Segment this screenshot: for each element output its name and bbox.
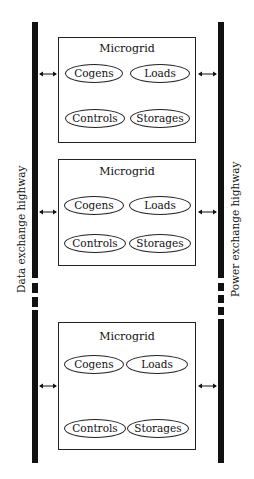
data-highway-label: Data exchange highway bbox=[15, 166, 27, 293]
component-controls: Controls bbox=[64, 419, 126, 438]
power-highway-bar-dash-2 bbox=[218, 295, 224, 303]
microgrid-box-2: Microgrid Cogens Loads Controls Storages bbox=[58, 159, 196, 266]
microgrid-box-1: Microgrid Cogens Loads Controls Storages bbox=[58, 37, 196, 143]
component-controls: Controls bbox=[64, 234, 126, 253]
component-loads: Loads bbox=[129, 196, 191, 215]
bidirectional-arrow-icon bbox=[197, 382, 218, 390]
microgrid-title: Microgrid bbox=[59, 42, 195, 55]
bidirectional-arrow-icon bbox=[197, 70, 218, 78]
component-loads: Loads bbox=[126, 355, 188, 374]
data-highway-bar-dash-1 bbox=[32, 283, 38, 293]
microgrid-title: Microgrid bbox=[59, 165, 195, 178]
component-cogens: Cogens bbox=[64, 196, 124, 215]
data-highway-bar-top bbox=[32, 22, 38, 278]
component-loads: Loads bbox=[130, 64, 190, 83]
power-highway-bar-top bbox=[218, 22, 224, 278]
component-storages: Storages bbox=[129, 234, 191, 253]
component-cogens: Cogens bbox=[65, 64, 123, 83]
data-highway-bar-dash-2 bbox=[32, 297, 38, 307]
microgrid-title: Microgrid bbox=[59, 330, 195, 343]
power-highway-bar-bottom bbox=[218, 319, 224, 463]
component-storages: Storages bbox=[130, 109, 190, 128]
component-cogens: Cogens bbox=[64, 355, 124, 374]
component-storages: Storages bbox=[127, 419, 189, 438]
bidirectional-arrow-icon bbox=[38, 382, 58, 390]
microgrid-box-3: Microgrid Cogens Loads Controls Storages bbox=[58, 322, 196, 450]
bidirectional-arrow-icon bbox=[38, 70, 58, 78]
bidirectional-arrow-icon bbox=[38, 208, 58, 216]
power-highway-bar-dash-3 bbox=[218, 307, 224, 315]
bidirectional-arrow-icon bbox=[197, 208, 218, 216]
component-controls: Controls bbox=[65, 109, 125, 128]
power-highway-bar-dash-1 bbox=[218, 283, 224, 291]
power-highway-label: Power exchange highway bbox=[229, 162, 241, 297]
